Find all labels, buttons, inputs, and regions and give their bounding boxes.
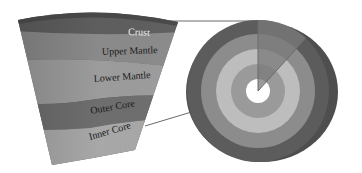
diagram-canvas: Crust Upper Mantle Lower Mantle Outer Co… xyxy=(0,0,362,173)
layer-wedge xyxy=(0,0,200,173)
label-upper-mantle: Upper Mantle xyxy=(102,44,159,57)
label-crust: Crust xyxy=(128,26,150,38)
cross-section xyxy=(186,20,338,162)
earth-layers-diagram: Crust Upper Mantle Lower Mantle Outer Co… xyxy=(0,0,362,173)
